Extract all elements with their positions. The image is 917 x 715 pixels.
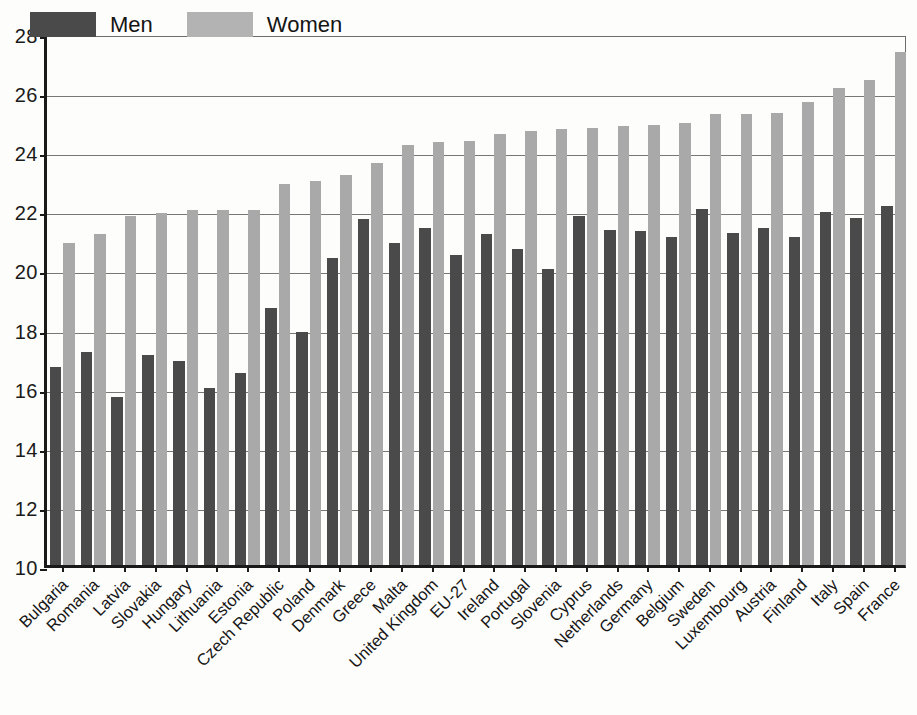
bar-men [512, 249, 524, 565]
y-tick-mark [40, 37, 47, 39]
bar-men [50, 367, 62, 565]
bar-women [618, 126, 630, 565]
bar-group [758, 37, 783, 565]
bar-men [204, 388, 216, 565]
bar-men [419, 228, 431, 565]
bar-group [50, 37, 75, 565]
bar-women [802, 102, 814, 565]
y-tick-mark [40, 214, 47, 216]
bar-women [156, 213, 168, 565]
y-tick-mark [40, 510, 47, 512]
bar-group [450, 37, 475, 565]
bar-group [81, 37, 106, 565]
bar-men [635, 231, 647, 565]
bar-group [696, 37, 721, 565]
bar-women [895, 52, 907, 565]
legend-entry: Women [187, 12, 342, 37]
bar-group [481, 37, 506, 565]
bar-group [235, 37, 260, 565]
bar-women [187, 210, 199, 565]
legend-entry: Men [30, 12, 153, 37]
bar-men [696, 209, 708, 565]
bar-chart: 10121416182022242628 MenWomen BulgariaRo… [0, 0, 917, 715]
bar-men [820, 212, 832, 565]
bar-women [864, 80, 876, 565]
y-tick-label: 22 [4, 203, 38, 223]
x-axis: BulgariaRomaniaLatviaSlovakiaHungaryLith… [44, 572, 906, 715]
bar-group [296, 37, 321, 565]
y-tick-label: 18 [4, 322, 38, 342]
bar-women [125, 216, 137, 565]
bar-women [94, 234, 106, 565]
y-tick-label: 16 [4, 381, 38, 401]
bar-group [265, 37, 290, 565]
y-tick-mark [40, 273, 47, 275]
bar-group [727, 37, 752, 565]
bar-men [173, 361, 185, 565]
bar-men [389, 243, 401, 565]
bar-group [881, 37, 906, 565]
bar-men [450, 255, 462, 565]
bar-men [81, 352, 93, 565]
bar-women [464, 141, 476, 565]
bar-group [111, 37, 136, 565]
bar-group [604, 37, 629, 565]
bar-group [573, 37, 598, 565]
legend-label: Men [110, 14, 153, 36]
bar-group [512, 37, 537, 565]
bar-women [679, 123, 691, 565]
bar-women [525, 131, 537, 565]
chart-legend: MenWomen [30, 12, 342, 37]
bar-men [296, 332, 308, 565]
plot-area [44, 36, 906, 568]
y-tick-label: 10 [4, 558, 38, 578]
bar-women [371, 163, 383, 565]
bar-women [771, 113, 783, 565]
y-tick-mark [40, 155, 47, 157]
bars-layer [47, 37, 905, 565]
bar-women [556, 129, 568, 565]
bar-women [587, 128, 599, 565]
bar-women [433, 142, 445, 565]
bar-group [850, 37, 875, 565]
bar-women [402, 145, 414, 565]
bar-group [666, 37, 691, 565]
y-tick-label: 20 [4, 262, 38, 282]
bar-men [235, 373, 247, 565]
y-tick-mark [40, 96, 47, 98]
bar-group [419, 37, 444, 565]
y-tick-mark [40, 392, 47, 394]
bar-women [741, 114, 753, 565]
bar-women [217, 210, 229, 565]
y-tick-label: 14 [4, 440, 38, 460]
bar-group [542, 37, 567, 565]
bar-women [648, 125, 660, 565]
bar-men [573, 216, 585, 565]
y-tick-mark [40, 333, 47, 335]
y-tick-label: 12 [4, 499, 38, 519]
legend-swatch-men [30, 12, 96, 37]
bar-group [327, 37, 352, 565]
legend-label: Women [267, 14, 342, 36]
bar-men [604, 230, 616, 565]
y-tick-mark [40, 451, 47, 453]
y-tick-label: 24 [4, 144, 38, 164]
bar-group [142, 37, 167, 565]
bar-women [248, 210, 260, 565]
bar-group [389, 37, 414, 565]
bar-women [310, 181, 322, 565]
bar-men [881, 206, 893, 565]
bar-men [111, 397, 123, 565]
y-tick-mark [40, 569, 47, 571]
bar-men [850, 218, 862, 565]
bar-men [727, 233, 739, 566]
bar-women [710, 114, 722, 565]
bar-group [635, 37, 660, 565]
bar-group [820, 37, 845, 565]
bar-men [142, 355, 154, 565]
bar-men [542, 269, 554, 565]
legend-swatch-women [187, 12, 253, 37]
bar-men [265, 308, 277, 565]
bar-women [833, 88, 845, 565]
bar-group [204, 37, 229, 565]
